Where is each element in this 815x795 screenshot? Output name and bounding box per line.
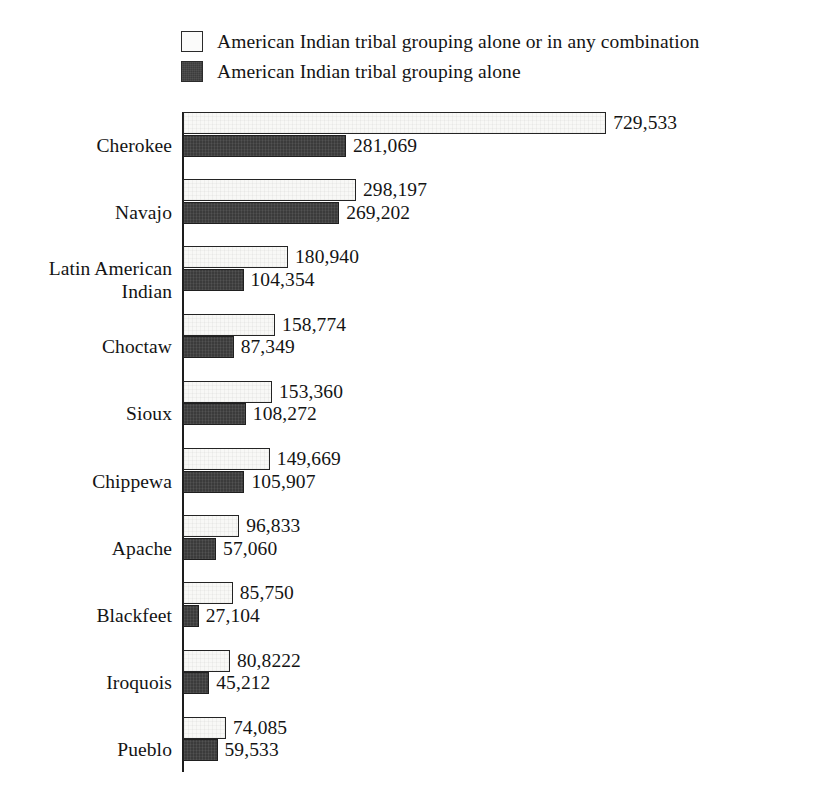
bar-light bbox=[183, 314, 275, 336]
bar-light bbox=[183, 515, 239, 537]
bar-light bbox=[183, 179, 356, 201]
bar-group: Choctaw158,77487,349 bbox=[0, 314, 815, 360]
bar-dark bbox=[183, 336, 234, 358]
bar-light bbox=[183, 582, 233, 604]
chart-root: American Indian tribal grouping alone or… bbox=[0, 0, 815, 795]
bar-value-label: 87,349 bbox=[241, 336, 295, 358]
category-label: Blackfeet bbox=[0, 604, 172, 627]
bar-dark bbox=[183, 202, 339, 224]
category-label: Latin American Indian bbox=[0, 257, 172, 303]
bar-value-label: 149,669 bbox=[277, 448, 341, 470]
category-label: Pueblo bbox=[0, 738, 172, 761]
bar-value-label: 105,907 bbox=[251, 471, 315, 493]
bar-value-label: 74,085 bbox=[233, 717, 287, 739]
bar-value-label: 27,104 bbox=[206, 605, 260, 627]
bar-value-label: 298,197 bbox=[363, 179, 427, 201]
bar-light bbox=[183, 246, 288, 268]
bar-light bbox=[183, 381, 272, 403]
bar-value-label: 281,069 bbox=[353, 135, 417, 157]
bar-value-label: 729,533 bbox=[613, 112, 677, 134]
bar-value-label: 45,212 bbox=[216, 672, 270, 694]
plot-area: Cherokee729,533281,069Navajo298,197269,2… bbox=[0, 0, 815, 795]
bar-value-label: 80,8222 bbox=[237, 650, 301, 672]
bar-group: Navajo298,197269,202 bbox=[0, 179, 815, 225]
bar-dark bbox=[183, 739, 218, 761]
category-label: Sioux bbox=[0, 402, 172, 425]
bar-light bbox=[183, 112, 606, 134]
bar-light bbox=[183, 448, 270, 470]
bar-value-label: 96,833 bbox=[246, 515, 300, 537]
bar-group: Apache96,83357,060 bbox=[0, 515, 815, 561]
bar-light bbox=[183, 650, 230, 672]
bar-value-label: 158,774 bbox=[282, 314, 346, 336]
bar-value-label: 180,940 bbox=[295, 246, 359, 268]
bar-value-label: 85,750 bbox=[240, 582, 294, 604]
bar-value-label: 57,060 bbox=[223, 538, 277, 560]
bar-group: Cherokee729,533281,069 bbox=[0, 112, 815, 158]
bar-value-label: 59,533 bbox=[225, 739, 279, 761]
bar-value-label: 269,202 bbox=[346, 202, 410, 224]
bar-dark bbox=[183, 538, 216, 560]
category-label: Apache bbox=[0, 537, 172, 560]
category-label: Choctaw bbox=[0, 335, 172, 358]
bar-value-label: 153,360 bbox=[279, 381, 343, 403]
bar-dark bbox=[183, 269, 244, 291]
category-label: Chippewa bbox=[0, 470, 172, 493]
bar-group: Latin American Indian180,940104,354 bbox=[0, 246, 815, 292]
bar-dark bbox=[183, 672, 209, 694]
bar-group: Blackfeet85,75027,104 bbox=[0, 582, 815, 628]
bar-dark bbox=[183, 605, 199, 627]
bar-light bbox=[183, 717, 226, 739]
bar-value-label: 104,354 bbox=[251, 269, 315, 291]
category-label: Navajo bbox=[0, 201, 172, 224]
category-label: Iroquois bbox=[0, 671, 172, 694]
bar-dark bbox=[183, 471, 244, 493]
bar-dark bbox=[183, 135, 346, 157]
bar-group: Iroquois80,822245,212 bbox=[0, 650, 815, 696]
bar-group: Sioux153,360108,272 bbox=[0, 381, 815, 427]
bar-group: Pueblo74,08559,533 bbox=[0, 717, 815, 763]
bar-group: Chippewa149,669105,907 bbox=[0, 448, 815, 494]
bar-dark bbox=[183, 403, 246, 425]
category-label: Cherokee bbox=[0, 134, 172, 157]
bar-value-label: 108,272 bbox=[253, 403, 317, 425]
